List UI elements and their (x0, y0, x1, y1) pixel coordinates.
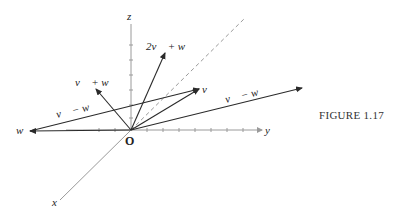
figure-caption: FIGURE 1.17 (319, 109, 384, 121)
label-v-minus-w-left: v⃗ − w⃗ (55, 99, 99, 120)
vector-v (131, 89, 199, 130)
label-v-plus-w: v⃗ + w⃗ (75, 76, 117, 88)
vector-v-plus-w (96, 89, 131, 130)
label-v: v⃗ (202, 83, 215, 95)
labels: z y x O 2v⃗ + w⃗ v⃗ + w⃗ v⃗ w⃗ v⃗ − w⃗ v… (16, 10, 384, 208)
vector-diagram: z y x O 2v⃗ + w⃗ v⃗ + w⃗ v⃗ w⃗ v⃗ − w⃗ v… (0, 0, 406, 218)
label-2v-plus-w: 2v⃗ + w⃗ (146, 40, 194, 52)
z-axis-label: z (126, 10, 132, 22)
vector-w (30, 130, 131, 131)
x-axis-label: x (51, 196, 57, 208)
x-axis-negative (131, 18, 245, 130)
origin-label: O (125, 134, 134, 148)
y-axis-label: y (264, 124, 270, 136)
x-axis (60, 130, 131, 200)
vector-2v-plus-w (131, 53, 165, 130)
vector-v-minus-w (131, 88, 302, 130)
label-w: w⃗ (16, 124, 32, 136)
